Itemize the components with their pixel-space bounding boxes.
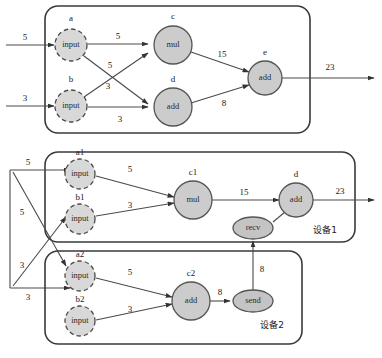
edge-label-ext-b: 3 [23, 93, 28, 103]
node-c2[interactable]: add c2 [172, 268, 210, 320]
node-c-op: mul [166, 39, 180, 49]
node-c-label: c [171, 11, 175, 21]
node-a2-label: a2 [76, 249, 85, 259]
node-a2-op: input [71, 270, 89, 280]
edge-label-e-out: 23 [326, 62, 336, 72]
edge-b1-to-c1 [96, 203, 174, 216]
node-a1[interactable]: input a1 [65, 147, 95, 189]
node-a1-op: input [71, 168, 89, 178]
edge-label-b-c: 3 [106, 81, 111, 91]
node-a1-label: a1 [76, 147, 85, 157]
node-e-label: e [263, 47, 267, 57]
edge-b-to-c [84, 53, 148, 97]
panel-device-1: 5 3 5 3 5 3 15 23 input a1 [10, 147, 374, 302]
node-a[interactable]: input a [55, 13, 87, 61]
edge-a2-to-c2 [96, 278, 172, 297]
edge-a-to-d [84, 56, 148, 104]
node-c1-label: c1 [189, 167, 198, 177]
edge-label-a-d: 5 [108, 60, 113, 70]
edge-label-b1-c1: 3 [128, 200, 133, 210]
edge-d-to-e [191, 85, 249, 103]
edge-label-c1-d1: 15 [240, 187, 250, 197]
node-send[interactable]: send [233, 290, 273, 312]
edge-label-c-e: 15 [218, 49, 228, 59]
edge-label-a-c: 5 [116, 31, 121, 41]
node-c[interactable]: mul c [154, 11, 192, 64]
node-c2-op: add [185, 295, 198, 305]
node-d1-label: d [294, 169, 299, 179]
edge-a1-to-c1 [96, 176, 174, 197]
edge-label-a2-c2: 5 [128, 267, 133, 277]
node-d1-op: add [290, 194, 303, 204]
diagram-root: 5 3 5 5 3 3 15 8 23 input a input [0, 0, 382, 358]
node-recv[interactable]: recv [233, 217, 273, 239]
edge-label-d1-out: 23 [336, 186, 346, 196]
node-b2[interactable]: input b2 [65, 294, 95, 336]
node-c2-label: c2 [187, 268, 196, 278]
edge-label-b2-c2: 3 [128, 304, 133, 314]
edge-label-fanout5-a2: 5 [20, 207, 25, 217]
node-d-op: add [167, 101, 180, 111]
device-label-1: 设备1 [313, 224, 337, 235]
node-b1-label: b1 [76, 192, 85, 202]
node-send-op: send [245, 295, 261, 305]
node-a-label: a [69, 13, 73, 23]
panel-whole-graph: 5 3 5 5 3 3 15 8 23 input a input [6, 6, 374, 133]
edge-b2-to-c2 [96, 304, 172, 320]
node-e[interactable]: add e [248, 47, 282, 95]
edge-label-send-recv: 8 [260, 264, 265, 274]
edge-label-c2-send: 8 [218, 287, 223, 297]
node-b2-label: b2 [76, 294, 85, 304]
edge-label-b-d: 3 [118, 114, 123, 124]
edge-label-fanout3-b1: 3 [20, 260, 25, 270]
node-c1-op: mul [186, 194, 200, 204]
node-d[interactable]: add d [154, 74, 192, 126]
device-label-2: 设备2 [260, 319, 284, 330]
node-recv-op: recv [246, 222, 261, 232]
node-a2[interactable]: input a2 [65, 249, 95, 291]
edge-label-a1-c1: 5 [128, 164, 133, 174]
node-b2-op: input [71, 315, 89, 325]
node-e-op: add [259, 72, 272, 82]
node-b1-op: input [71, 213, 89, 223]
node-a-op: input [62, 39, 80, 49]
node-b[interactable]: input b [55, 74, 87, 122]
edge-label-ext-a: 5 [23, 32, 28, 42]
node-d-label: d [171, 74, 176, 84]
panel-device-2: 8 5 3 8 input a2 input b2 add c2 [45, 241, 302, 344]
node-b-label: b [69, 74, 74, 84]
dataflow-graph-canvas: 5 3 5 5 3 3 15 8 23 input a input [0, 0, 382, 358]
edge-label-ext-b2: 3 [26, 292, 31, 302]
edge-label-ext-a1: 5 [26, 157, 31, 167]
node-c1[interactable]: mul c1 [174, 167, 212, 219]
node-b1[interactable]: input b1 [65, 192, 95, 234]
node-b-op: input [62, 100, 80, 110]
node-d1[interactable]: add d [279, 169, 313, 217]
edge-label-d-e: 8 [222, 98, 227, 108]
